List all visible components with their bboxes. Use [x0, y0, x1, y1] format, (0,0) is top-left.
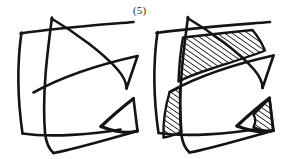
figure-container: (5) [0, 0, 297, 159]
figure-canvas [0, 0, 297, 159]
figure-number-label: (5) [133, 4, 146, 16]
